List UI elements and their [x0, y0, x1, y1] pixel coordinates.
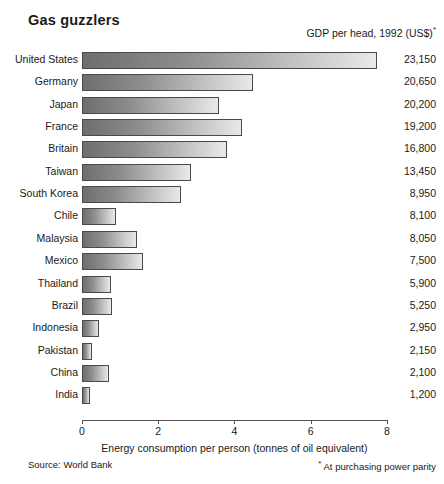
- category-label: Indonesia: [0, 320, 78, 334]
- footnote-text: At purchasing power parity: [321, 461, 436, 472]
- chart-figure: Gas guzzlers GDP per head, 1992 (US$)* U…: [0, 0, 444, 484]
- bar-row: Mexico7,500: [0, 251, 444, 273]
- value-column-header-footnote-marker: *: [433, 25, 436, 34]
- bar-container: [82, 320, 99, 337]
- category-label: Pakistan: [0, 343, 78, 357]
- bar: [82, 276, 111, 293]
- category-label: France: [0, 119, 78, 133]
- category-label: Malaysia: [0, 231, 78, 245]
- bar: [82, 164, 191, 181]
- footnote: * At purchasing power parity: [318, 459, 436, 472]
- x-axis-tick: [82, 420, 83, 424]
- category-label: Chile: [0, 208, 78, 222]
- bar-row: South Korea8,950: [0, 184, 444, 206]
- category-label: Germany: [0, 74, 78, 88]
- category-label: India: [0, 387, 78, 401]
- plot-area: United States23,150Germany20,650Japan20,…: [0, 50, 444, 422]
- value-column-header-text: GDP per head, 1992 (US$): [306, 27, 432, 39]
- category-label: Taiwan: [0, 164, 78, 178]
- bar-container: [82, 52, 377, 69]
- bar-row: France19,200: [0, 117, 444, 139]
- bar-container: [82, 387, 90, 404]
- bar: [82, 74, 253, 91]
- category-label: United States: [0, 52, 78, 66]
- gdp-value-label: 5,250: [346, 298, 436, 312]
- bar-row: Thailand5,900: [0, 274, 444, 296]
- gdp-value-label: 20,200: [346, 97, 436, 111]
- x-axis: 02468 Energy consumption per person (ton…: [0, 420, 444, 450]
- source-note: Source: World Bank: [28, 459, 112, 470]
- bar: [82, 343, 92, 360]
- bar-row: United States23,150: [0, 50, 444, 72]
- bar-row: Brazil5,250: [0, 296, 444, 318]
- bar-container: [82, 208, 116, 225]
- bar: [82, 298, 112, 315]
- bar-row: Germany20,650: [0, 72, 444, 94]
- x-axis-tick: [158, 420, 159, 424]
- x-axis-tick-label: 0: [67, 425, 97, 437]
- bar: [82, 119, 242, 136]
- bar-row: Japan20,200: [0, 95, 444, 117]
- bar: [82, 186, 181, 203]
- bar-row: Malaysia8,050: [0, 229, 444, 251]
- gdp-value-label: 20,650: [346, 74, 436, 88]
- bar: [82, 97, 219, 114]
- bar-row: India1,200: [0, 385, 444, 407]
- bar: [82, 320, 99, 337]
- category-label: South Korea: [0, 186, 78, 200]
- x-axis-tick: [311, 420, 312, 424]
- category-label: Brazil: [0, 298, 78, 312]
- bar: [82, 208, 116, 225]
- gdp-value-label: 5,900: [346, 276, 436, 290]
- x-axis-tick-label: 4: [219, 425, 249, 437]
- bar-container: [82, 119, 242, 136]
- page-title: Gas guzzlers: [28, 12, 120, 28]
- bar-row: Chile8,100: [0, 206, 444, 228]
- gdp-value-label: 8,100: [346, 208, 436, 222]
- bar-row: China2,100: [0, 363, 444, 385]
- bar-container: [82, 298, 112, 315]
- bar-row: Taiwan13,450: [0, 162, 444, 184]
- x-axis-tick-label: 6: [296, 425, 326, 437]
- gdp-value-label: 13,450: [346, 164, 436, 178]
- bar: [82, 231, 137, 248]
- bar-container: [82, 253, 143, 270]
- bar: [82, 253, 143, 270]
- gdp-value-label: 2,100: [346, 365, 436, 379]
- gdp-value-label: 16,800: [346, 141, 436, 155]
- bar: [82, 387, 90, 404]
- gdp-value-label: 1,200: [346, 387, 436, 401]
- bar-container: [82, 97, 219, 114]
- bar-container: [82, 141, 227, 158]
- bar-row: Pakistan2,150: [0, 341, 444, 363]
- category-label: Britain: [0, 141, 78, 155]
- bar-container: [82, 231, 137, 248]
- bar-row: Indonesia2,950: [0, 318, 444, 340]
- value-column-header: GDP per head, 1992 (US$)*: [306, 25, 436, 39]
- x-axis-tick-label: 8: [372, 425, 402, 437]
- category-label: Thailand: [0, 276, 78, 290]
- x-axis-tick: [387, 420, 388, 424]
- gdp-value-label: 8,950: [346, 186, 436, 200]
- bar: [82, 141, 227, 158]
- bar: [82, 52, 377, 69]
- bar-container: [82, 276, 111, 293]
- bar-row: Britain16,800: [0, 139, 444, 161]
- gdp-value-label: 2,150: [346, 343, 436, 357]
- bar-container: [82, 343, 92, 360]
- gdp-value-label: 8,050: [346, 231, 436, 245]
- bar: [82, 365, 109, 382]
- bar-container: [82, 74, 253, 91]
- category-label: Japan: [0, 97, 78, 111]
- x-axis-label: Energy consumption per person (tonnes of…: [82, 442, 387, 454]
- bar-container: [82, 164, 191, 181]
- gdp-value-label: 7,500: [346, 253, 436, 267]
- gdp-value-label: 19,200: [346, 119, 436, 133]
- bar-container: [82, 186, 181, 203]
- gdp-value-label: 2,950: [346, 320, 436, 334]
- category-label: China: [0, 365, 78, 379]
- x-axis-tick: [234, 420, 235, 424]
- gdp-value-label: 23,150: [346, 52, 436, 66]
- category-label: Mexico: [0, 253, 78, 267]
- x-axis-tick-label: 2: [143, 425, 173, 437]
